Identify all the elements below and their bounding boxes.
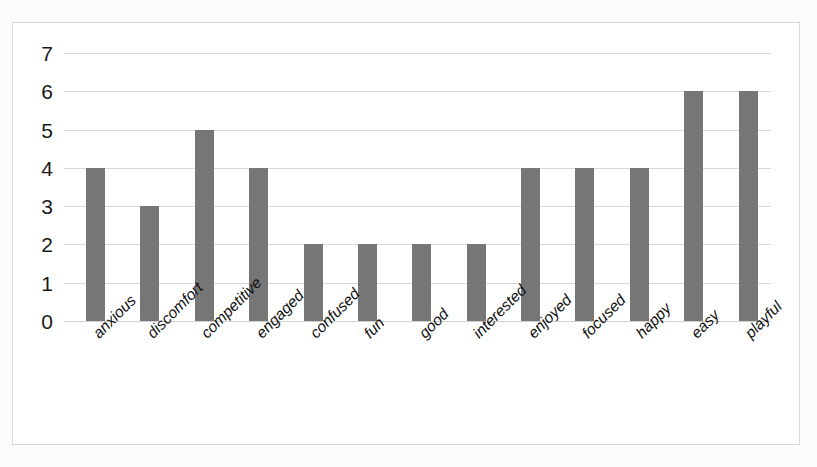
gridline: [64, 130, 771, 131]
gridline: [64, 53, 771, 54]
y-axis-tick-label: 3: [41, 196, 53, 217]
plot-area: 01234567 anxiousdiscomfortcompetitiveeng…: [64, 53, 771, 321]
chart-page: 01234567 anxiousdiscomfortcompetitiveeng…: [0, 0, 817, 467]
y-axis-tick-label: 6: [41, 81, 53, 102]
gridline: [64, 168, 771, 169]
bar: [358, 244, 377, 321]
y-axis-tick-label: 7: [41, 43, 53, 64]
chart-frame: 01234567 anxiousdiscomfortcompetitiveeng…: [12, 22, 800, 445]
bar: [86, 168, 105, 321]
gridline: [64, 91, 771, 92]
y-axis-tick-label: 5: [41, 119, 53, 140]
y-axis-tick-label: 2: [41, 234, 53, 255]
bar: [575, 168, 594, 321]
scan-artifact: [480, 462, 780, 463]
y-axis-tick-label: 1: [41, 272, 53, 293]
bar: [140, 206, 159, 321]
bar: [412, 244, 431, 321]
y-axis-tick-label: 0: [41, 311, 53, 332]
bar: [630, 168, 649, 321]
gridline: [64, 206, 771, 207]
bar: [684, 91, 703, 321]
y-axis-tick-label: 4: [41, 157, 53, 178]
bar: [467, 244, 486, 321]
bar: [739, 91, 758, 321]
bar: [304, 244, 323, 321]
scan-artifact: [40, 460, 460, 461]
